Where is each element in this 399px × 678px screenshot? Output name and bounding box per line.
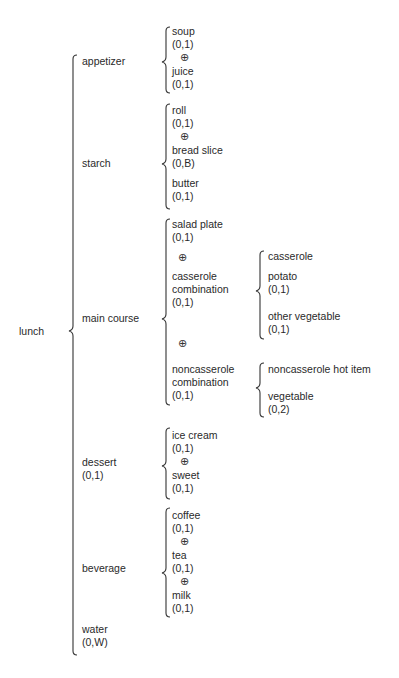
node-noncasserole-combination-line2: combination [172,376,229,389]
rep-milk: (0,1) [172,602,194,615]
rep-salad-plate: (0,1) [172,231,194,244]
brace-noncasserole-combination [256,363,264,417]
xor-icon: ⊕ [178,337,187,350]
node-milk: milk [172,589,191,602]
rep-potato: (0,1) [268,283,290,296]
node-ice-cream: ice cream [172,429,218,442]
node-soup: soup [172,25,195,38]
rep-ice-cream: (0,1) [172,442,194,455]
node-butter: butter [172,177,199,190]
brace-beverage [162,508,170,617]
brace-dessert [162,428,170,499]
node-appetizer: appetizer [82,55,125,68]
node-noncasserole-hot-item: noncasserole hot item [268,363,371,376]
rep-tea: (0,1) [172,562,194,575]
node-juice: juice [172,65,194,78]
node-casserole: casserole [268,250,313,263]
xor-icon: ⊕ [178,251,187,264]
node-roll: roll [172,104,186,117]
rep-vegetable: (0,2) [268,403,290,416]
node-beverage: beverage [82,562,126,575]
node-noncasserole-combination: noncasserole [172,363,234,376]
node-main-course: main course [82,312,139,325]
node-vegetable: vegetable [268,390,314,403]
rep-noncasserole-combination: (0,1) [172,389,194,402]
rep-soup: (0,1) [172,38,194,51]
node-dessert: dessert [82,456,116,469]
xor-icon: ⊕ [180,575,189,588]
xor-icon: ⊕ [180,51,189,64]
xor-icon: ⊕ [180,535,189,548]
brace-starch [162,104,170,209]
xor-icon: ⊕ [180,455,189,468]
node-casserole-combination-line2: combination [172,283,229,296]
node-lunch: lunch [19,325,44,338]
rep-coffee: (0,1) [172,522,194,535]
brace-appetizer [162,27,170,93]
rep-juice: (0,1) [172,78,194,91]
brace-lunch [69,55,77,655]
node-potato: potato [268,270,297,283]
node-water: water [82,623,108,636]
node-sweet: sweet [172,469,199,482]
rep-water: (0,W) [82,636,108,649]
node-tea: tea [172,549,187,562]
braces-layer [0,0,399,678]
node-coffee: coffee [172,509,200,522]
node-casserole-combination: casserole [172,270,217,283]
brace-main-course [162,219,170,405]
node-bread-slice: bread slice [172,144,223,157]
rep-dessert: (0,1) [82,469,104,482]
rep-casserole-combination: (0,1) [172,296,194,309]
rep-other-vegetable: (0,1) [268,323,290,336]
node-starch: starch [82,157,111,170]
node-other-vegetable: other vegetable [268,310,340,323]
xor-icon: ⊕ [180,130,189,143]
rep-butter: (0,1) [172,190,194,203]
brace-casserole-combination [256,251,264,339]
rep-sweet: (0,1) [172,482,194,495]
node-salad-plate: salad plate [172,218,223,231]
rep-bread-slice: (0,B) [172,157,195,170]
rep-roll: (0,1) [172,117,194,130]
